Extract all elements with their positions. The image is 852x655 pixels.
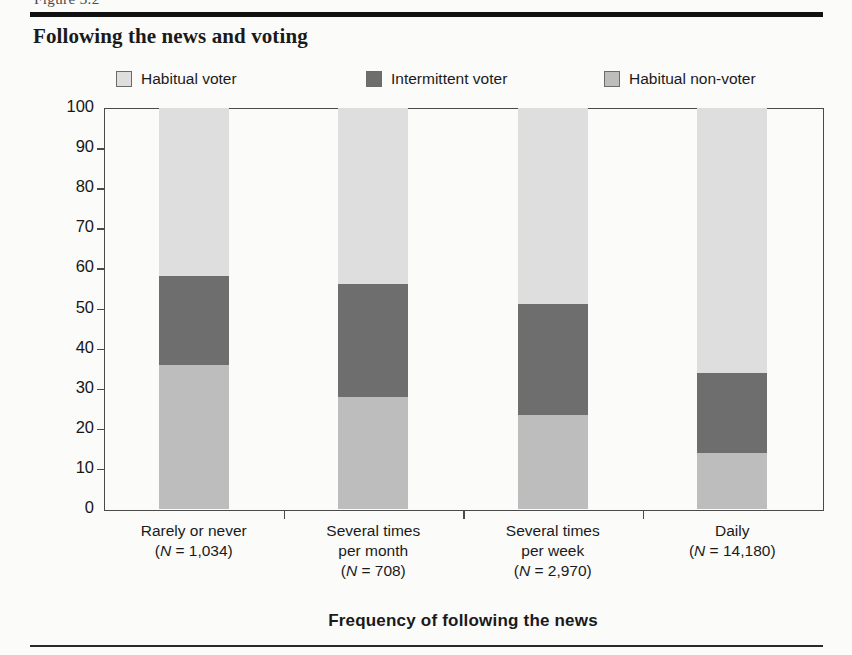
y-tick-label: 50 xyxy=(46,298,94,317)
x-category-line: Rarely or never xyxy=(99,521,289,541)
x-category-sample-size: (N = 14,180) xyxy=(637,541,827,561)
x-category-sample-size: (N = 708) xyxy=(278,561,468,581)
bars-layer xyxy=(104,108,822,509)
y-tick-label: 80 xyxy=(46,177,94,196)
y-tick-mark xyxy=(97,309,104,311)
x-category-line: Several times xyxy=(278,521,468,541)
x-category-label: Several timesper week(N = 2,970) xyxy=(458,521,648,581)
y-tick-mark xyxy=(97,148,104,150)
x-category-label: Daily(N = 14,180) xyxy=(637,521,827,561)
y-tick-label: 30 xyxy=(46,378,94,397)
x-category-label: Several timesper month(N = 708) xyxy=(278,521,468,581)
bar-segment xyxy=(518,415,588,509)
y-tick-mark xyxy=(97,268,104,270)
y-tick-label: 40 xyxy=(46,338,94,357)
bar-segment xyxy=(518,108,588,304)
bar-segment xyxy=(697,453,767,509)
y-tick-label: 70 xyxy=(46,217,94,236)
y-tick-label: 20 xyxy=(46,418,94,437)
x-category-line: Daily xyxy=(637,521,827,541)
y-tick-label: 60 xyxy=(46,257,94,276)
y-tick-mark xyxy=(97,469,104,471)
x-tick-mark xyxy=(284,511,286,519)
x-tick-mark xyxy=(463,511,465,519)
y-tick-label: 0 xyxy=(46,498,94,517)
x-category-line: Several times xyxy=(458,521,648,541)
bottom-rule-divider xyxy=(30,645,823,647)
x-category-line: per week xyxy=(458,541,648,561)
y-tick-label: 90 xyxy=(46,137,94,156)
stacked-bar xyxy=(697,108,767,509)
y-tick-label: 10 xyxy=(46,458,94,477)
x-category-sample-size: (N = 1,034) xyxy=(99,541,289,561)
figure-page: { "figure": { "figure_tag": "Figure 3.2"… xyxy=(0,0,852,655)
bar-segment xyxy=(159,276,229,364)
stacked-bar xyxy=(338,108,408,509)
y-tick-mark xyxy=(97,228,104,230)
bar-segment xyxy=(697,108,767,373)
y-tick-mark xyxy=(97,389,104,391)
chart-plot-wrapper: 1009080706050403020100 Rarely or never(N… xyxy=(0,0,852,655)
x-category-line: per month xyxy=(278,541,468,561)
bar-segment xyxy=(159,108,229,276)
y-tick-mark xyxy=(97,429,104,431)
y-tick-mark xyxy=(97,349,104,351)
x-category-label: Rarely or never(N = 1,034) xyxy=(99,521,289,561)
bar-segment xyxy=(697,373,767,453)
stacked-bar xyxy=(518,108,588,509)
bar-segment xyxy=(338,284,408,396)
stacked-bar xyxy=(159,108,229,509)
x-tick-mark xyxy=(643,511,645,519)
y-tick-label: 100 xyxy=(46,97,94,116)
bar-segment xyxy=(338,397,408,509)
y-tick-mark xyxy=(97,188,104,190)
bar-segment xyxy=(159,365,229,509)
bar-segment xyxy=(518,304,588,414)
bar-segment xyxy=(338,108,408,284)
x-axis-title: Frequency of following the news xyxy=(104,611,822,631)
x-category-sample-size: (N = 2,970) xyxy=(458,561,648,581)
